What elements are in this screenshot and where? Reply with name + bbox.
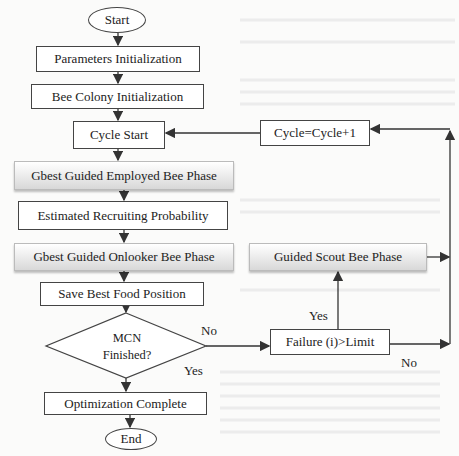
employed-bee-phase-node: Gbest Guided Employed Bee Phase: [14, 161, 234, 190]
end-node: End: [105, 428, 157, 450]
save-best-food-position-label: Save Best Food Position: [58, 286, 186, 302]
failure-limit-node: Failure (i)>Limit: [270, 329, 390, 355]
parameters-initialization-label: Parameters Initialization: [54, 51, 181, 67]
failure-no-label: No: [401, 355, 417, 371]
mcn-yes-label: Yes: [184, 363, 203, 379]
start-node: Start: [88, 7, 146, 33]
start-label: Start: [105, 12, 130, 28]
onlooker-bee-phase-node: Gbest Guided Onlooker Bee Phase: [14, 243, 234, 271]
cycle-increment-node: Cycle=Cycle+1: [260, 120, 370, 146]
mcn-label-line1: MCN: [90, 330, 164, 347]
mcn-label-line2: Finished?: [90, 347, 164, 364]
cycle-start-label: Cycle Start: [90, 127, 148, 143]
optimization-complete-node: Optimization Complete: [44, 392, 207, 415]
cycle-start-node: Cycle Start: [73, 121, 165, 149]
cycle-increment-label: Cycle=Cycle+1: [274, 125, 356, 141]
onlooker-bee-phase-label: Gbest Guided Onlooker Bee Phase: [33, 249, 214, 265]
bee-colony-initialization-label: Bee Colony Initialization: [52, 89, 183, 105]
recruiting-probability-node: Estimated Recruiting Probability: [18, 201, 228, 230]
mcn-no-label: No: [201, 323, 217, 339]
employed-bee-phase-label: Gbest Guided Employed Bee Phase: [31, 168, 217, 184]
scout-bee-phase-label: Guided Scout Bee Phase: [274, 249, 402, 265]
failure-limit-label: Failure (i)>Limit: [286, 334, 375, 350]
mcn-finished-label: MCN Finished?: [90, 330, 164, 364]
save-best-food-position-node: Save Best Food Position: [40, 282, 204, 306]
end-label: End: [121, 431, 142, 447]
bee-colony-initialization-node: Bee Colony Initialization: [31, 84, 204, 109]
parameters-initialization-node: Parameters Initialization: [36, 46, 200, 72]
scout-bee-phase-node: Guided Scout Bee Phase: [249, 243, 427, 271]
failure-yes-label: Yes: [309, 308, 328, 324]
recruiting-probability-label: Estimated Recruiting Probability: [37, 208, 208, 224]
optimization-complete-label: Optimization Complete: [64, 396, 186, 412]
